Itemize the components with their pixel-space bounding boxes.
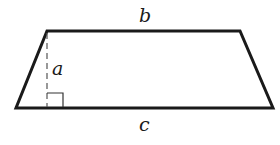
label-bottom-base: c — [139, 113, 150, 135]
trapezoid-diagram: b a c — [0, 0, 280, 145]
label-height: a — [52, 57, 63, 79]
label-top-base: b — [139, 4, 151, 26]
right-angle-marker — [47, 93, 63, 107]
